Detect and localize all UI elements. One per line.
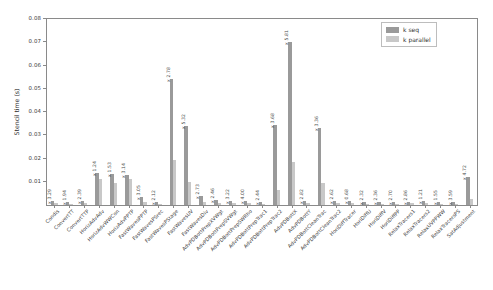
bar-group — [62, 19, 77, 205]
bar-group — [344, 19, 359, 205]
bar-value-annotation: x 2.32 — [359, 190, 364, 205]
bar-value-annotation: x 4.00 — [240, 189, 245, 204]
chart-legend: k seq k parallel — [381, 22, 437, 47]
bar-group — [136, 19, 151, 205]
chart-root: Stencil time (s) 0.010.020.030.040.050.0… — [0, 0, 493, 290]
x-tick-mark — [218, 205, 219, 208]
bar-value-annotation: x 2.36 — [373, 190, 378, 205]
bar-value-annotation: x 2.46 — [210, 188, 215, 203]
bar-value-annotation: x 3.36 — [314, 116, 319, 131]
bar-group — [418, 19, 433, 205]
bar-value-annotation: x 2.70 — [388, 190, 393, 205]
bar-value-annotation: x 3.14 — [121, 163, 126, 178]
y-tick-label: 0.02 — [29, 155, 41, 161]
bar-value-annotation: x 2.73 — [195, 184, 200, 199]
bar-k-parallel — [173, 160, 176, 205]
bar-group — [91, 19, 106, 205]
bar-k-parallel — [99, 179, 102, 205]
y-tick-label: 0.04 — [29, 108, 41, 114]
bar-value-annotation: x 2.62 — [329, 189, 334, 204]
bar-group — [329, 19, 344, 205]
bar-group — [314, 19, 329, 205]
bar-group — [388, 19, 403, 205]
bar-value-annotation: x 1.94 — [62, 190, 67, 205]
bar-value-annotation: x 1.24 — [92, 161, 97, 176]
bar-value-annotation: x 0.68 — [344, 189, 349, 204]
bar-value-annotation: x 2.82 — [299, 189, 304, 204]
bar-value-annotation: x 2.39 — [77, 189, 82, 204]
bar-k-parallel — [129, 179, 132, 205]
bar-value-annotation: x 3.59 — [448, 190, 453, 205]
bar-group — [255, 19, 270, 205]
bar-group — [403, 19, 418, 205]
legend-label-k-parallel: k parallel — [403, 36, 431, 43]
bar-k-parallel — [321, 183, 324, 205]
bar-value-annotation: x 1.53 — [107, 162, 112, 177]
x-tick-mark — [129, 205, 130, 208]
legend-item-k-parallel[interactable]: k parallel — [386, 36, 431, 43]
bar-group — [358, 19, 373, 205]
bar-group — [299, 19, 314, 205]
bar-value-annotation: x 3.22 — [225, 189, 230, 204]
legend-label-k-seq: k seq — [403, 26, 419, 33]
bar-value-annotation: x 2.44 — [255, 190, 260, 205]
bar-group — [151, 19, 166, 205]
bar-group — [284, 19, 299, 205]
bar-value-annotation: x 3.29 — [47, 189, 52, 204]
bar-value-annotation: x 1.55 — [433, 190, 438, 205]
bar-group — [373, 19, 388, 205]
legend-item-k-seq[interactable]: k seq — [386, 26, 431, 33]
y-axis-label: Stencil time (s) — [13, 62, 20, 162]
bar-value-annotation: x 2.78 — [166, 67, 171, 82]
bar-value-annotation: x 1.21 — [418, 189, 423, 204]
bar-value-annotation: x 2.86 — [403, 189, 408, 204]
bar-k-parallel — [292, 162, 295, 205]
bar-k-parallel — [277, 190, 280, 205]
bar-group — [447, 19, 462, 205]
x-tick-mark — [381, 205, 382, 208]
bar-group — [166, 19, 181, 205]
bar-value-annotation: x 2.12 — [151, 190, 156, 205]
bar-group — [106, 19, 121, 205]
bar-value-annotation: x 3.68 — [270, 113, 275, 128]
bar-group — [433, 19, 448, 205]
bar-group — [77, 19, 92, 205]
legend-swatch-k-seq — [386, 27, 399, 33]
y-tick-label: 0.07 — [29, 38, 41, 44]
bar-group — [195, 19, 210, 205]
y-tick-label: 0.06 — [29, 62, 41, 68]
y-tick-label: 0.01 — [29, 178, 41, 184]
bar-value-annotation: x 4.72 — [462, 165, 467, 180]
bar-group — [180, 19, 195, 205]
bar-group — [47, 19, 62, 205]
bar-k-parallel — [114, 183, 117, 205]
x-axis-labels: CondisConvertTTConvertTTPHorizAdvAdvHori… — [47, 208, 477, 290]
y-axis: Stencil time (s) 0.010.020.030.040.050.0… — [0, 18, 46, 206]
x-tick-mark — [470, 205, 471, 208]
bar-group — [240, 19, 255, 205]
legend-swatch-k-parallel — [386, 36, 399, 42]
bar-value-annotation: x 5.32 — [181, 114, 186, 129]
bar-k-parallel — [188, 182, 191, 205]
bar-group — [210, 19, 225, 205]
bar-group — [225, 19, 240, 205]
y-tick-label: 0.08 — [29, 15, 41, 21]
bars-layer: x 3.29x 1.94x 2.39x 1.24x 1.53x 3.14x 3.… — [47, 19, 477, 205]
y-tick-label: 0.05 — [29, 85, 41, 91]
bar-value-annotation: x 5.81 — [284, 30, 289, 45]
bar-value-annotation: x 3.05 — [136, 185, 141, 200]
y-tick-label: 0.03 — [29, 131, 41, 137]
